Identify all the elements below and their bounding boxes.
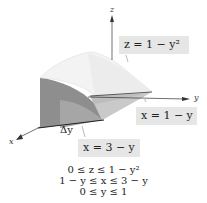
leader-top	[126, 55, 128, 62]
label-top-surface-text: z = 1 − y²	[124, 38, 180, 51]
x-axis-label: x	[9, 137, 14, 146]
y-axis-arrow	[182, 97, 190, 101]
label-front-plane-text: x = 3 − y	[83, 141, 135, 154]
label-top-surface: z = 1 − y²	[119, 36, 189, 54]
leader-front	[82, 126, 85, 137]
inequality-x: 1 − y ≤ x ≤ 3 − y	[0, 175, 207, 186]
z-axis-label: z	[110, 5, 114, 14]
inequality-y: 0 ≤ y ≤ 1	[0, 186, 207, 197]
leader-back	[143, 96, 146, 102]
y-axis-label: y	[194, 93, 199, 102]
z-axis-arrow	[110, 15, 114, 22]
delta-y-label: Δy	[60, 124, 73, 135]
label-front-plane: x = 3 − y	[78, 139, 140, 157]
x-axis-arrow	[16, 134, 23, 140]
inequality-z: 0 ≤ z ≤ 1 − y²	[0, 164, 207, 175]
back-face	[88, 53, 152, 98]
label-back-plane-text: x = 1 − y	[141, 109, 193, 122]
label-back-plane: x = 1 − y	[136, 107, 197, 125]
